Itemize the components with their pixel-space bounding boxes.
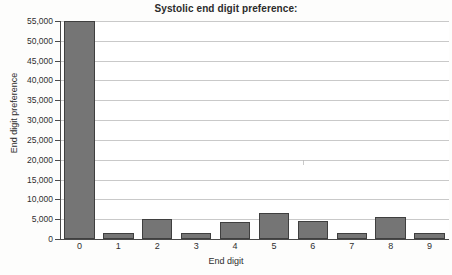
bar xyxy=(259,213,289,239)
x-axis-tick-label: 1 xyxy=(103,241,133,251)
y-axis-tick xyxy=(55,61,60,62)
bar xyxy=(414,233,444,239)
gridline xyxy=(60,21,449,22)
bar xyxy=(181,233,211,239)
y-axis-tick xyxy=(55,180,60,181)
bar xyxy=(298,221,328,239)
y-axis-tick-label-wrap: 55,000 xyxy=(0,16,53,26)
y-axis-tick-label-wrap: 5,000 xyxy=(0,214,53,224)
y-axis-tick xyxy=(55,100,60,101)
bar xyxy=(103,233,133,239)
y-axis-tick xyxy=(55,41,60,42)
y-axis-tick xyxy=(55,219,60,220)
x-axis-tick-label: 6 xyxy=(298,241,328,251)
y-axis-tick-label-wrap: 25,000 xyxy=(0,135,53,145)
y-axis-tick xyxy=(55,80,60,81)
y-axis-tick-label: 55,000 xyxy=(1,16,53,26)
x-axis-tick-label: 0 xyxy=(64,241,94,251)
scan-artifact xyxy=(303,160,304,165)
y-axis-tick xyxy=(55,21,60,22)
y-axis-tick xyxy=(55,160,60,161)
bar xyxy=(337,233,367,239)
y-axis-tick-label-wrap: 35,000 xyxy=(0,95,53,105)
y-axis-tick-label-wrap: 0 xyxy=(0,234,53,244)
y-axis-tick-label: 10,000 xyxy=(1,194,53,204)
y-axis-tick-label-wrap: 40,000 xyxy=(0,75,53,85)
y-axis-tick xyxy=(55,239,60,240)
x-axis-tick-label: 2 xyxy=(142,241,172,251)
gridline xyxy=(60,180,449,181)
gridline xyxy=(60,80,449,81)
bar xyxy=(142,219,172,239)
gridline xyxy=(60,100,449,101)
x-axis-tick-label: 5 xyxy=(259,241,289,251)
y-axis-tick xyxy=(55,140,60,141)
x-axis-tick-label: 4 xyxy=(220,241,250,251)
y-axis-tick-label: 5,000 xyxy=(1,214,53,224)
plot-area xyxy=(60,21,449,239)
gridline xyxy=(60,41,449,42)
gridline xyxy=(60,120,449,121)
gridline xyxy=(60,199,449,200)
x-axis-baseline xyxy=(60,239,449,240)
chart-title: Systolic end digit preference: xyxy=(0,3,452,14)
bar xyxy=(64,21,94,239)
gridline xyxy=(60,140,449,141)
y-axis-tick-label-wrap: 50,000 xyxy=(0,36,53,46)
x-axis-tick-label: 8 xyxy=(376,241,406,251)
y-axis-tick-label-wrap: 20,000 xyxy=(0,155,53,165)
y-axis-tick-label-wrap: 45,000 xyxy=(0,56,53,66)
x-axis-tick-label: 9 xyxy=(415,241,445,251)
plot-background xyxy=(60,21,449,239)
bar xyxy=(375,217,405,239)
gridline xyxy=(60,160,449,161)
y-axis-title: End digit preference xyxy=(9,43,19,183)
y-axis-tick-label-wrap: 10,000 xyxy=(0,194,53,204)
x-axis-tick-label: 7 xyxy=(337,241,367,251)
y-axis-tick-label-wrap: 30,000 xyxy=(0,115,53,125)
gridline xyxy=(60,61,449,62)
bar xyxy=(220,222,250,239)
y-axis-line xyxy=(60,21,61,240)
y-axis-tick-label-wrap: 15,000 xyxy=(0,175,53,185)
chart-screenshot: Systolic end digit preference: 55,00050,… xyxy=(0,0,452,275)
x-axis-tick-label: 3 xyxy=(181,241,211,251)
y-axis-tick xyxy=(55,120,60,121)
y-axis-tick-label: 0 xyxy=(1,234,53,244)
y-axis-tick xyxy=(55,199,60,200)
x-axis-title: End digit xyxy=(0,256,452,266)
